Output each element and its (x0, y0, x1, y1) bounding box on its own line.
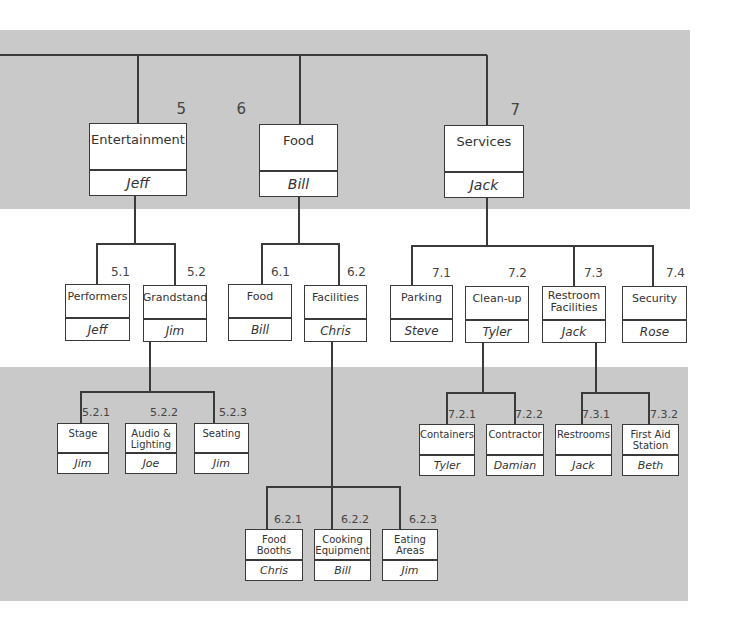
bar-72x (446, 392, 515, 394)
node-title: Restroom Facilities (543, 287, 605, 319)
node-title: Facilities (305, 286, 366, 318)
node-owner: Damian (487, 454, 543, 475)
node-title: Parking (391, 286, 452, 318)
wbs-node-containers[interactable]: Containers Tyler (419, 424, 475, 476)
node-title: Services (445, 126, 523, 171)
wbs-node-food-booths[interactable]: Food Booths Chris (245, 529, 303, 581)
wbs-number: 6.1 (260, 265, 290, 279)
conn-6 (299, 54, 301, 124)
node-owner: Steve (391, 318, 452, 341)
wbs-node-stage[interactable]: Stage Jim (57, 423, 109, 474)
wbs-number: 6.2.3 (405, 513, 437, 526)
node-owner: Bill (229, 317, 291, 340)
conn-6-2-3 (399, 486, 401, 529)
conn-6-2-down (331, 342, 333, 529)
wbs-number: 6.2.2 (337, 513, 369, 526)
node-title: Audio & Lighting (126, 424, 176, 452)
wbs-node-grandstand[interactable]: Grandstand Jim (143, 285, 207, 342)
wbs-node-first-aid-station[interactable]: First Aid Station Beth (622, 424, 679, 476)
wbs-number: 5.2.3 (215, 406, 247, 419)
bar-7x (411, 245, 653, 247)
wbs-number: 5.1 (100, 265, 130, 279)
node-title: Performers (66, 285, 129, 317)
node-title: Seating (195, 424, 248, 452)
wbs-node-parking[interactable]: Parking Steve (390, 285, 453, 342)
node-owner: Jim (58, 452, 108, 473)
node-title: Entertainment (90, 124, 186, 169)
wbs-number: 6.2.1 (270, 513, 302, 526)
wbs-node-restrooms[interactable]: Restrooms Jack (555, 424, 612, 476)
wbs-number: 7.4 (655, 266, 685, 280)
conn-5-down (134, 196, 136, 244)
wbs-number: 5.2.1 (78, 406, 110, 419)
wbs-number: 7.3.2 (646, 408, 678, 421)
bar-6x (261, 243, 339, 245)
node-title: Clean-up (466, 287, 528, 319)
bar-5x (96, 243, 175, 245)
wbs-number: 5.2.2 (146, 406, 178, 419)
node-owner: Jim (144, 318, 206, 341)
node-title: Cooking Equipment (315, 530, 370, 559)
node-owner: Jim (195, 452, 248, 473)
wbs-number: 5 (166, 100, 186, 118)
node-owner: Jack (445, 171, 523, 197)
wbs-node-entertainment[interactable]: Entertainment Jeff (89, 123, 187, 196)
node-owner: Jeff (90, 169, 186, 195)
wbs-node-performers[interactable]: Performers Jeff (65, 284, 130, 341)
wbs-number: 7 (500, 101, 520, 119)
conn-7-3-down (595, 342, 597, 393)
conn-7-4 (652, 245, 654, 286)
node-owner: Jeff (66, 317, 129, 340)
wbs-node-services[interactable]: Services Jack (444, 125, 524, 198)
conn-7-down (486, 197, 488, 246)
node-owner: Bill (260, 170, 337, 196)
node-title: Food (260, 125, 337, 170)
wbs-number: 7.2 (497, 266, 527, 280)
wbs-node-security[interactable]: Security Rose (622, 286, 687, 343)
node-title: Stage (58, 424, 108, 452)
node-owner: Tyler (466, 319, 528, 342)
wbs-node-food-6-1[interactable]: Food Bill (228, 284, 292, 341)
node-owner: Chris (305, 318, 366, 341)
node-owner: Jim (383, 559, 437, 580)
wbs-number: 7.2.2 (511, 408, 543, 421)
node-owner: Rose (623, 319, 686, 342)
wbs-node-facilities[interactable]: Facilities Chris (304, 285, 367, 342)
node-owner: Joe (126, 452, 176, 473)
wbs-node-contractor[interactable]: Contractor Damian (486, 424, 544, 476)
node-title: Restrooms (556, 425, 611, 454)
wbs-node-audio-lighting[interactable]: Audio & Lighting Joe (125, 423, 177, 474)
wbs-number: 7.2.1 (444, 408, 476, 421)
node-owner: Jack (543, 319, 605, 342)
wbs-node-cooking-equipment[interactable]: Cooking Equipment Bill (314, 529, 371, 581)
wbs-node-clean-up[interactable]: Clean-up Tyler (465, 286, 529, 343)
conn-5-1 (96, 243, 98, 285)
node-title: Security (623, 287, 686, 319)
conn-7-2-down (482, 342, 484, 393)
node-title: Contractor (487, 425, 543, 454)
conn-6-2-1 (266, 486, 268, 529)
node-title: Eating Areas (383, 530, 437, 559)
wbs-number: 7.1 (421, 266, 451, 280)
root-bar-2 (0, 54, 487, 56)
wbs-node-eating-areas[interactable]: Eating Areas Jim (382, 529, 438, 581)
node-owner: Beth (623, 454, 678, 475)
wbs-node-restroom-facilities[interactable]: Restroom Facilities Jack (542, 286, 606, 343)
wbs-node-seating[interactable]: Seating Jim (194, 423, 249, 474)
node-owner: Chris (246, 559, 302, 580)
wbs-number: 6.2 (336, 265, 366, 279)
wbs-number: 5.2 (176, 265, 206, 279)
bar-52x (80, 391, 214, 393)
conn-5 (137, 54, 139, 124)
wbs-number: 7.3 (573, 266, 603, 280)
wbs-number: 7.3.1 (578, 408, 610, 421)
conn-7-1 (411, 245, 413, 286)
node-owner: Bill (315, 559, 370, 580)
node-title: Food Booths (246, 530, 302, 559)
bar-62x (266, 486, 400, 488)
node-title: Grandstand (144, 286, 206, 318)
conn-5-2-down (149, 341, 151, 392)
wbs-number: 6 (226, 100, 246, 118)
node-title: First Aid Station (623, 425, 678, 454)
wbs-node-food[interactable]: Food Bill (259, 124, 338, 197)
